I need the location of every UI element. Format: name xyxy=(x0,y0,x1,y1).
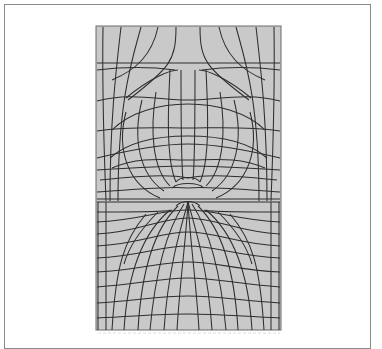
mesh-diagram xyxy=(0,0,382,341)
